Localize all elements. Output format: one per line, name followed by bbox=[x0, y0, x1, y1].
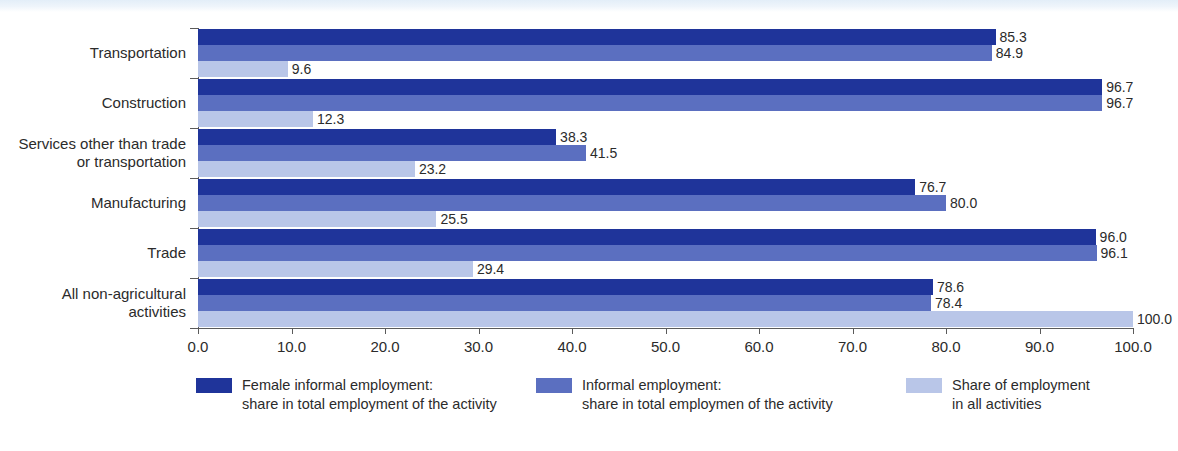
bar-value-label: 76.7 bbox=[919, 179, 946, 195]
legend-label: Female informal employment: share in tot… bbox=[242, 376, 497, 414]
x-tick bbox=[479, 328, 480, 334]
bar: 96.0 bbox=[198, 229, 1096, 245]
bar-value-label: 96.1 bbox=[1101, 245, 1128, 261]
x-tick bbox=[759, 328, 760, 334]
legend-label: Informal employment: share in total empl… bbox=[582, 376, 833, 414]
bar: 78.4 bbox=[198, 295, 931, 311]
x-tick bbox=[385, 328, 386, 334]
bar-value-label: 84.9 bbox=[996, 45, 1023, 61]
x-tick-label: 40.0 bbox=[557, 338, 586, 355]
category-label: All non-agricultural activities bbox=[0, 285, 186, 321]
category-label: Services other than trade or transportat… bbox=[0, 135, 186, 171]
x-tick bbox=[1133, 328, 1134, 334]
bar-value-label: 96.7 bbox=[1106, 79, 1133, 95]
bar: 41.5 bbox=[198, 145, 586, 161]
bar-value-label: 96.7 bbox=[1106, 95, 1133, 111]
legend-label: Share of employment in all activities bbox=[952, 376, 1090, 414]
category-label: Manufacturing bbox=[0, 194, 186, 212]
legend-item[interactable]: Share of employment in all activities bbox=[906, 376, 1090, 414]
plot-area: 0.010.020.030.040.050.060.070.080.090.01… bbox=[198, 28, 1133, 328]
bar-group: 85.384.99.6 bbox=[198, 28, 1133, 78]
x-tick bbox=[946, 328, 947, 334]
x-tick bbox=[853, 328, 854, 334]
bar-group: 38.341.523.2 bbox=[198, 128, 1133, 178]
bar-value-label: 12.3 bbox=[317, 111, 344, 127]
bar: 85.3 bbox=[198, 29, 996, 45]
bar-value-label: 85.3 bbox=[1000, 29, 1027, 45]
bar-group: 78.678.4100.0 bbox=[198, 278, 1133, 328]
legend-item[interactable]: Female informal employment: share in tot… bbox=[196, 376, 497, 414]
x-tick-label: 60.0 bbox=[744, 338, 773, 355]
page-top-band bbox=[0, 0, 1178, 12]
legend-swatch-icon bbox=[906, 378, 942, 393]
x-tick-label: 100.0 bbox=[1114, 338, 1152, 355]
bar: 96.7 bbox=[198, 95, 1102, 111]
bar: 96.1 bbox=[198, 245, 1097, 261]
chart-root: 0.010.020.030.040.050.060.070.080.090.01… bbox=[0, 0, 1178, 451]
y-tick bbox=[190, 328, 199, 329]
category-label: Construction bbox=[0, 94, 186, 112]
bar: 38.3 bbox=[198, 129, 556, 145]
bar: 80.0 bbox=[198, 195, 946, 211]
bar-group: 76.780.025.5 bbox=[198, 178, 1133, 228]
bar-value-label: 23.2 bbox=[419, 161, 446, 177]
x-tick-label: 50.0 bbox=[651, 338, 680, 355]
bar: 29.4 bbox=[198, 261, 473, 277]
bar: 100.0 bbox=[198, 311, 1133, 327]
bar: 9.6 bbox=[198, 61, 288, 77]
category-label: Trade bbox=[0, 244, 186, 262]
x-tick bbox=[666, 328, 667, 334]
bar: 96.7 bbox=[198, 79, 1102, 95]
x-tick-label: 70.0 bbox=[838, 338, 867, 355]
bar: 76.7 bbox=[198, 179, 915, 195]
bar-value-label: 80.0 bbox=[950, 195, 977, 211]
bar: 78.6 bbox=[198, 279, 933, 295]
bar-group: 96.796.712.3 bbox=[198, 78, 1133, 128]
bar: 12.3 bbox=[198, 111, 313, 127]
x-tick-label: 30.0 bbox=[464, 338, 493, 355]
bar: 23.2 bbox=[198, 161, 415, 177]
legend-swatch-icon bbox=[536, 378, 572, 393]
bar-value-label: 25.5 bbox=[440, 211, 467, 227]
x-tick-label: 90.0 bbox=[1025, 338, 1054, 355]
bar-value-label: 100.0 bbox=[1137, 311, 1172, 327]
x-tick-label: 0.0 bbox=[188, 338, 209, 355]
x-tick-label: 80.0 bbox=[931, 338, 960, 355]
bar-group: 96.096.129.4 bbox=[198, 228, 1133, 278]
bar-value-label: 78.4 bbox=[935, 295, 962, 311]
category-label: Transportation bbox=[0, 44, 186, 62]
bar: 84.9 bbox=[198, 45, 992, 61]
x-tick bbox=[292, 328, 293, 334]
x-tick bbox=[1040, 328, 1041, 334]
x-tick-label: 10.0 bbox=[277, 338, 306, 355]
bar: 25.5 bbox=[198, 211, 436, 227]
bar-value-label: 9.6 bbox=[292, 61, 311, 77]
bar-value-label: 38.3 bbox=[560, 129, 587, 145]
bar-value-label: 96.0 bbox=[1100, 229, 1127, 245]
x-tick-label: 20.0 bbox=[370, 338, 399, 355]
x-tick bbox=[572, 328, 573, 334]
legend-item[interactable]: Informal employment: share in total empl… bbox=[536, 376, 833, 414]
legend-swatch-icon bbox=[196, 378, 232, 393]
bar-value-label: 41.5 bbox=[590, 145, 617, 161]
chart-legend: Female informal employment: share in tot… bbox=[0, 372, 1178, 432]
bar-value-label: 78.6 bbox=[937, 279, 964, 295]
bar-value-label: 29.4 bbox=[477, 261, 504, 277]
